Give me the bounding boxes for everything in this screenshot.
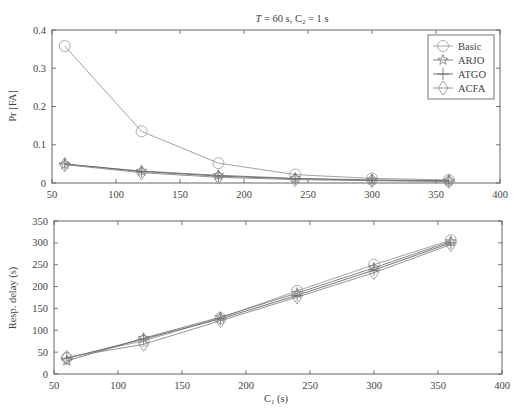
y-tick-label: 0.3 [33,63,46,74]
y-tick-label: 150 [32,303,48,314]
x-tick-label: 350 [430,380,446,391]
y-tick-label: 250 [32,259,48,270]
bottom-xlabel: C1 (s) [264,393,289,406]
x-tick-label: 300 [366,380,382,391]
y-tick-label: 0.1 [33,139,46,150]
bottom-ylabel: Resp. delay (s) [7,266,19,329]
basic-marker-circle [59,41,70,52]
bottom-plot: 5010015020025030035040005010015020025030… [32,216,510,392]
y-tick-label: 0.2 [33,101,46,112]
x-tick-label: 200 [238,380,254,391]
x-tick-label: 350 [428,189,444,200]
x-tick-label: 200 [236,189,252,200]
chart-figure: T = 60 s, C2 = 1 s 501001502002503003504… [0,0,522,419]
series-line-basic [67,240,451,358]
x-tick-label: 150 [172,189,188,200]
legend-label-atgo: ATGO [458,69,486,80]
x-tick-label: 250 [302,380,318,391]
x-tick-label: 100 [108,189,124,200]
y-tick-label: 200 [32,281,48,292]
x-tick-label: 400 [494,380,510,391]
x-tick-label: 50 [49,380,60,391]
x-tick-label: 250 [300,189,316,200]
y-tick-label: 350 [32,216,48,227]
legend-label-basic: Basic [458,41,482,52]
x-tick-label: 150 [174,380,190,391]
legend: BasicARJOATGOACFA [428,35,494,99]
y-tick-label: 0.4 [33,25,47,36]
chart-title: T = 60 s, C2 = 1 s [255,13,328,26]
atgo-marker-plus [366,174,378,186]
x-tick-label: 50 [47,189,58,200]
series-line-basic [65,46,449,180]
y-tick-label: 0 [43,369,48,380]
y-tick-label: 300 [32,237,48,248]
legend-label-acfa: ACFA [458,83,486,94]
x-tick-label: 400 [492,189,508,200]
series-line-atgo [67,243,451,358]
series-line-arjo [67,242,451,361]
y-tick-label: 100 [32,325,48,336]
x-tick-label: 100 [110,380,126,391]
top-ylabel: Pr [FA] [7,90,18,122]
x-tick-label: 300 [364,189,380,200]
legend-label-arjo: ARJO [458,55,485,66]
y-tick-label: 0 [41,178,46,189]
y-tick-label: 50 [38,347,49,358]
